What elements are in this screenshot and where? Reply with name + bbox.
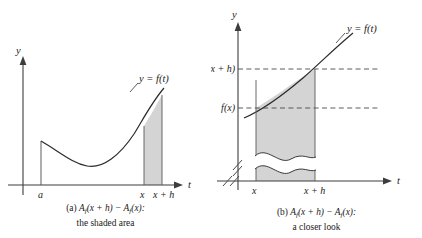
caption-a-prefix: (a) — [66, 203, 79, 213]
t-axis-arrowhead-b — [383, 178, 392, 185]
value-label-f-x-plus-h: f(x + h) — [211, 63, 236, 75]
caption-b: (b) Af(x + h) − Af(x): a closer look — [211, 206, 422, 233]
caption-a: (a) Af(x + h) − Af(x): the shaded area — [0, 202, 211, 229]
caption-b-line2: a closer look — [211, 221, 422, 233]
panel-b-closer-look: y t y = f(t) f(x + h) f(x) x x + h (b) A… — [211, 0, 422, 238]
tick-label-x-b: x — [251, 185, 257, 196]
y-axis-arrowhead-b — [235, 22, 242, 31]
y-axis-arrowhead-a — [20, 56, 27, 65]
t-axis-label-b: t — [397, 175, 401, 186]
caption-a-line2: the shaded area — [0, 217, 211, 229]
caption-a-line1: (a) Af(x + h) − Af(x): — [0, 202, 211, 217]
tick-label-x-plus-h-a: x + h — [152, 189, 174, 200]
caption-a-end: (x): — [131, 203, 145, 213]
tick-label-x-a: x — [139, 189, 145, 200]
y-axis-label-a: y — [15, 45, 21, 56]
caption-b-prefix: (b) — [277, 207, 290, 217]
caption-b-mid: (x + h) − — [298, 207, 335, 217]
t-axis-arrowhead-a — [174, 182, 183, 189]
tick-label-x-plus-h-b: x + h — [303, 185, 325, 196]
y-axis-label-b: y — [231, 9, 237, 20]
shaded-area-region-a — [144, 95, 162, 185]
curve-label-a: y = f(t) — [138, 73, 169, 85]
figure-root: y t y = f(t) a x x + h (a) Af(x + h) − A… — [0, 0, 422, 238]
tick-label-a-point: a — [38, 189, 43, 200]
caption-b-end: (x): — [343, 207, 357, 217]
panel-a-shaded-area: y t y = f(t) a x x + h (a) Af(x + h) − A… — [0, 0, 211, 238]
panel-b-graph: y t y = f(t) f(x + h) f(x) x x + h — [211, 0, 422, 205]
t-axis-label-a: t — [188, 179, 192, 190]
panel-a-graph: y t y = f(t) a x x + h — [0, 0, 211, 200]
caption-a-mid: (x + h) − — [87, 203, 124, 213]
caption-b-line1: (b) Af(x + h) − Af(x): — [211, 206, 422, 221]
curve-label-b: y = f(t) — [346, 23, 377, 35]
curve-label-leader-a — [130, 83, 138, 92]
value-label-f-x: f(x) — [221, 102, 236, 114]
